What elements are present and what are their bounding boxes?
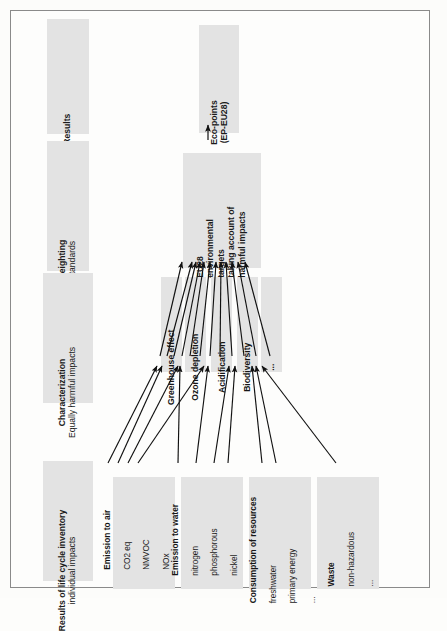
eu28-line5: harmful impacts — [238, 211, 248, 277]
inv-item-0-1: NMVOC — [142, 540, 151, 570]
stage-title-inventory: Results of life cycle inventory — [58, 510, 68, 631]
stage-subtitle-inventory: individual impacts — [68, 537, 78, 605]
inventory-group-waste: Waste non-hazardous ... — [317, 477, 379, 589]
node-impact-biodiversity: Biodiversity — [237, 277, 258, 372]
stage-header-inventory: Results of life cycle inventory individu… — [43, 461, 93, 581]
stage-subtitle-characterization: Equally harmful impacts — [68, 347, 78, 438]
inv-title-3: Waste — [326, 563, 336, 587]
stage-header-results: Results — [47, 19, 89, 134]
eu28-line2: environmental — [206, 219, 216, 278]
inv-item-0-0: CO2 eq — [123, 542, 132, 570]
node-eu28-targets: EU28 environmental targets taking accoun… — [183, 153, 261, 268]
inv-title-0: Emission to air — [102, 510, 112, 570]
impact-label-2: Acidification — [216, 341, 226, 393]
inv-item-1-2: nickel — [230, 555, 239, 576]
node-eco-points: Eco-points (EP-EU28) — [199, 25, 239, 133]
inv-item-1-1: phosphorous — [210, 529, 219, 576]
stage-title-characterization: Characterization — [58, 359, 68, 426]
inv-title-1: Emission to water — [170, 504, 180, 576]
inv-title-2: Consumption of resources — [248, 497, 258, 604]
node-impact-more: ... — [261, 277, 282, 372]
inv-item-3-0: non-hazardous — [346, 532, 355, 587]
inv-item-2-1: primary energy — [288, 549, 297, 604]
impact-label-0: Greenhouse effect — [166, 329, 176, 404]
node-impact-ozone-depletion: Ozone depletion — [185, 277, 206, 372]
impact-label-4: ... — [266, 363, 276, 370]
stage-header-weighting: Weighting Standards — [47, 141, 89, 271]
node-impact-acidification: Acidification — [211, 277, 232, 372]
inv-item-3-1: ... — [366, 580, 375, 587]
inv-item-2-0: freshwater — [268, 565, 277, 603]
eco-points-line1: Eco-points — [209, 100, 219, 144]
inv-item-1-0: nitrogen — [191, 546, 200, 576]
eu28-line4: taking account of — [227, 206, 237, 277]
node-impact-greenhouse-effect: Greenhouse effect — [161, 277, 182, 372]
eu28-line1: EU28 — [196, 256, 206, 278]
inv-item-2-2: ... — [308, 596, 317, 603]
eu28-line3: targets — [217, 249, 227, 278]
inventory-group-consumption-of-resources: Consumption of resources freshwater prim… — [249, 477, 311, 589]
figure-frame: Results Weighting Standards Characteriza… — [10, 10, 430, 588]
eco-points-line2: (EP-EU28) — [219, 102, 229, 144]
stage-header-characterization: Characterization Equally harmful impacts — [43, 273, 93, 403]
inventory-group-emission-to-water: Emission to water nitrogen phosphorous n… — [181, 477, 243, 589]
impact-label-1: Ozone depletion — [190, 333, 200, 400]
stage-title-results: Results — [63, 113, 73, 144]
impact-label-3: Biodiversity — [242, 342, 252, 391]
